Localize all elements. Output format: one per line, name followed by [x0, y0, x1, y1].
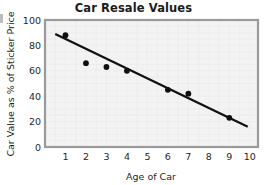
gridlines: [45, 20, 258, 147]
data-point: [124, 68, 130, 74]
x-axis-tick-label: 9: [226, 151, 232, 162]
y-axis-tick-labels: 020406080100: [23, 15, 41, 153]
data-point: [165, 87, 171, 93]
x-axis-tick-labels: 12345678910: [62, 151, 255, 162]
scatter-plot: 020406080100 12345678910 Age of Car Car …: [0, 0, 267, 185]
x-axis-tick-label: 5: [144, 151, 150, 162]
x-axis-tick-label: 4: [124, 151, 130, 162]
x-axis-tick-label: 1: [62, 151, 68, 162]
x-axis-tick-label: 3: [103, 151, 109, 162]
chart-figure: Car Resale Values 020406080100 123456789…: [0, 0, 267, 185]
data-point: [226, 115, 232, 121]
x-axis-tick-label: 2: [83, 151, 89, 162]
corner-mark: [0, 14, 3, 23]
x-axis-tick-label: 8: [206, 151, 212, 162]
x-axis-tick-label: 6: [165, 151, 171, 162]
x-axis-title: Age of Car: [126, 171, 176, 182]
y-axis-tick-label: 40: [29, 91, 41, 102]
data-point: [104, 64, 110, 70]
y-axis-tick-label: 0: [35, 142, 41, 153]
x-axis-tick-label: 7: [185, 151, 191, 162]
y-axis-tick-label: 60: [29, 65, 41, 76]
y-axis-tick-label: 20: [29, 116, 41, 127]
y-axis-tick-label: 80: [29, 40, 41, 51]
data-point: [83, 60, 89, 66]
data-point: [63, 32, 69, 38]
x-axis-tick-label: 10: [244, 151, 256, 162]
data-point: [185, 91, 191, 97]
y-axis-title: Car Value as % of Sticker Price: [5, 11, 16, 156]
y-axis-tick-label: 100: [23, 15, 41, 26]
